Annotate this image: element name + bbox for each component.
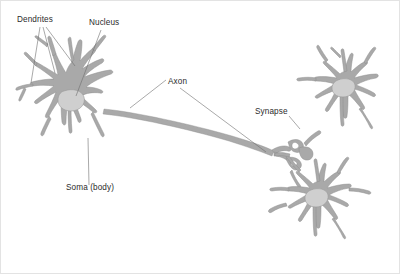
neuron-top-right (297, 45, 379, 129)
dendrite-branch-lower-left (41, 116, 51, 136)
main-neuron-nucleus (58, 90, 84, 111)
dendrite-branch-lower-right (91, 112, 104, 137)
neuron-bottom-right-dendrite-left (270, 187, 289, 191)
main-neuron (16, 35, 113, 137)
label-dendrites: Dendrites (17, 15, 53, 24)
neuron-diagram-figure: Dendrites Nucleus Axon Synapse Soma (bod… (0, 0, 400, 274)
neuron-bottom-right-dendrite-down-right (332, 218, 346, 239)
figure-border (1, 1, 400, 274)
neuron-bottom-right-dendrite-up-mid (314, 159, 320, 182)
label-soma: Soma (body) (66, 183, 114, 192)
neuron-bottom-right-dendrite-left2 (269, 203, 287, 213)
label-synapse: Synapse (255, 107, 288, 116)
neuron-bottom-right-nucleus (305, 189, 328, 207)
text-labels: Dendrites Nucleus Axon Synapse Soma (bod… (17, 15, 288, 192)
leader-axon-right (180, 88, 266, 152)
leader-synapse (289, 116, 300, 129)
label-axon: Axon (168, 77, 187, 86)
neuron-top-right-nucleus (332, 79, 355, 97)
leader-dendrites-1 (31, 27, 40, 83)
axon-structure (103, 109, 274, 156)
diagram-canvas: Dendrites Nucleus Axon Synapse Soma (bod… (0, 0, 400, 274)
neuron-top-right-dendrite-left (297, 77, 316, 81)
axon-shaft (103, 109, 274, 156)
terminal-bouton-c (299, 147, 313, 160)
axon-terminal (272, 131, 321, 188)
terminal-stalk-up (304, 131, 321, 146)
neuron-top-right-dendrite-down-right (359, 108, 373, 129)
leader-soma (88, 138, 89, 185)
neuron-bottom-right-dendrite-right (349, 188, 371, 194)
neuron-top-right-dendrite-up-left (317, 45, 328, 62)
dendrite-branch-left-fork (16, 84, 33, 101)
neuron-bottom-right-dendrite-up-right (337, 157, 349, 174)
neuron-bottom-right (269, 153, 371, 239)
label-nucleus: Nucleus (89, 18, 119, 27)
leader-axon-left (130, 80, 166, 108)
neuron-top-right-dendrite-up-right (364, 47, 376, 64)
